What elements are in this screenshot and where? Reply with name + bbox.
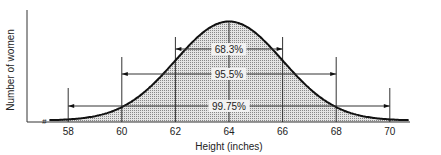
x-axis-label: Height (inches) [195, 141, 262, 152]
normal-distribution-chart: # 58606264666870 68.3%95.5%99.75% Height… [0, 0, 441, 155]
x-tick-label: 66 [277, 126, 289, 137]
x-tick-labels: 58606264666870 [63, 126, 396, 137]
x-tick-label: 60 [116, 126, 128, 137]
interval-label: 68.3% [215, 44, 243, 55]
interval-arrows: 68.3%95.5%99.75% [68, 43, 390, 112]
axis-break-icon: # [42, 117, 47, 126]
x-tick-label: 68 [331, 126, 343, 137]
y-axis-label: Number of women [5, 29, 16, 111]
x-tick-label: 58 [63, 126, 75, 137]
x-tick-label: 64 [223, 126, 235, 137]
x-tick-label: 70 [384, 126, 396, 137]
x-tick-label: 62 [170, 126, 182, 137]
interval-label: 95.5% [215, 69, 243, 80]
interval-label: 99.75% [212, 101, 246, 112]
